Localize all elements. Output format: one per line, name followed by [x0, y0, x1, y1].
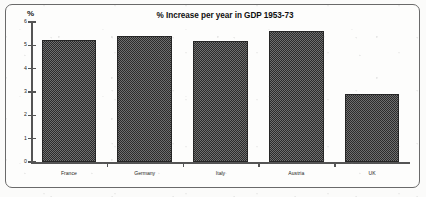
category-label-uk: UK: [369, 170, 376, 176]
bar-uk: [345, 94, 400, 162]
y-tick-label-2: 2: [24, 110, 27, 118]
category-label-france: France: [61, 170, 77, 176]
y-tick-label-1: 1: [24, 134, 27, 142]
bar-austria: [269, 31, 324, 162]
bar-france: [42, 40, 97, 163]
bar-series: [31, 22, 410, 162]
bar-germany: [117, 36, 172, 162]
category-label-austria: Austria: [288, 170, 304, 176]
chart-title: % Increase per year in GDP 1953-73: [0, 11, 426, 20]
x-axis-line: [31, 162, 410, 164]
category-label-germany: Germany: [134, 170, 155, 176]
y-tick-label-3: 3: [24, 87, 27, 95]
x-separator-tick-1: [107, 162, 109, 167]
bar-italy: [193, 41, 248, 162]
x-separator-tick-3: [258, 162, 260, 167]
chart-figure: % Increase per year in GDP 1953-73 % 012…: [0, 0, 426, 197]
x-separator-tick-4: [334, 162, 336, 167]
plot-area: 0123456 FranceGermanyItalyAustriaUK: [31, 22, 410, 162]
x-separator-tick-2: [183, 162, 185, 167]
y-tick-label-6: 6: [24, 17, 27, 25]
y-tick-label-4: 4: [24, 64, 27, 72]
category-label-italy: Italy: [216, 170, 225, 176]
y-tick-label-5: 5: [24, 40, 27, 48]
y-axis-unit-label: %: [27, 9, 34, 18]
y-tick-label-0: 0: [24, 157, 27, 165]
